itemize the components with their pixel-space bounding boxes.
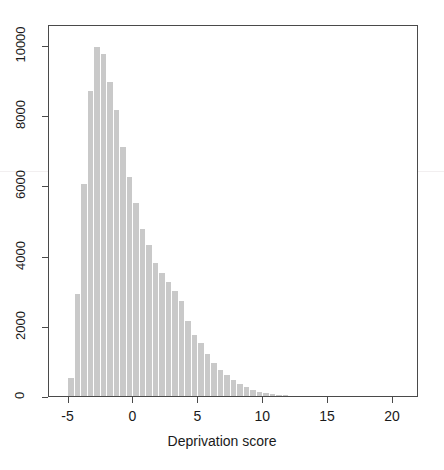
histogram-bar <box>101 54 106 396</box>
histogram-bar <box>185 321 190 396</box>
x-tick-mark <box>262 397 263 403</box>
histogram-bar <box>172 291 177 396</box>
y-tick-mark <box>42 327 48 328</box>
histogram-bar <box>270 394 275 396</box>
histogram-bar <box>120 147 125 396</box>
y-tick-label: 6000 <box>0 177 40 192</box>
histogram-bar <box>81 184 86 396</box>
x-tick-label: 20 <box>362 408 422 424</box>
y-tick-mark <box>42 257 48 258</box>
histogram-bar <box>231 380 236 396</box>
y-tick-label: 0 <box>0 388 40 403</box>
x-tick-label: 0 <box>102 408 162 424</box>
histogram-bar <box>198 343 203 396</box>
x-tick-mark <box>68 397 69 403</box>
histogram-bar <box>179 301 184 396</box>
y-tick-mark <box>42 186 48 187</box>
histogram-bar <box>166 282 171 396</box>
histogram-bar <box>205 354 210 396</box>
histogram-bar <box>68 378 73 396</box>
x-tick-label: -5 <box>38 408 98 424</box>
x-tick-label: 15 <box>297 408 357 424</box>
histogram-bar <box>250 390 255 396</box>
histogram-bar <box>114 110 119 396</box>
histogram-bar <box>75 294 80 396</box>
y-tick-mark <box>42 116 48 117</box>
histogram-bar <box>192 335 197 396</box>
x-tick-label: 10 <box>232 408 292 424</box>
y-tick-label: 10000 <box>0 37 40 52</box>
histogram-bar <box>257 392 262 396</box>
y-tick-label: 2000 <box>0 318 40 333</box>
histogram-bar <box>211 363 216 396</box>
histogram-bar <box>276 395 281 396</box>
histogram-bar <box>94 47 99 396</box>
histogram-bar <box>224 375 229 396</box>
x-tick-label: 5 <box>167 408 227 424</box>
histogram-bar <box>283 395 288 396</box>
y-tick-label: 8000 <box>0 107 40 122</box>
histogram-bar <box>244 387 249 396</box>
x-tick-mark <box>197 397 198 403</box>
histogram-bar <box>88 91 93 396</box>
y-tick-mark <box>42 397 48 398</box>
x-axis-title: Deprivation score <box>0 433 444 449</box>
histogram-figure: 0200040006000800010000 -505101520 Depriv… <box>0 0 444 470</box>
histogram-bar <box>146 245 151 396</box>
x-tick-mark <box>392 397 393 403</box>
y-tick-mark <box>42 46 48 47</box>
histogram-bar <box>263 393 268 396</box>
histogram-bar <box>159 273 164 396</box>
histogram-bar <box>133 203 138 396</box>
histogram-bar <box>153 263 158 396</box>
histogram-bar <box>140 229 145 396</box>
histogram-bar <box>127 177 132 396</box>
x-tick-mark <box>132 397 133 403</box>
plot-area <box>49 26 417 396</box>
histogram-bar <box>237 384 242 396</box>
y-tick-label: 4000 <box>0 248 40 263</box>
histogram-bar <box>218 370 223 396</box>
histogram-bar <box>107 82 112 396</box>
x-tick-mark <box>327 397 328 403</box>
plot-frame <box>48 25 418 397</box>
